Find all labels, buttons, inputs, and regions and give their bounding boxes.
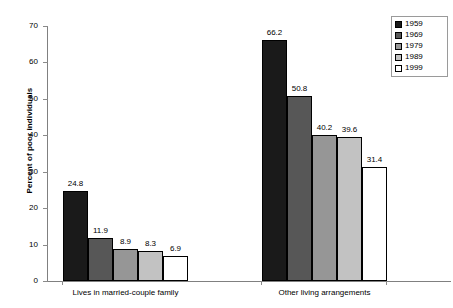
legend-item-label: 1979: [405, 42, 423, 50]
legend-item[interactable]: 1979: [395, 41, 444, 51]
bar: [362, 167, 387, 281]
y-axis-tick-label: 0: [0, 277, 38, 285]
bar-value-label: 11.9: [82, 227, 119, 235]
y-axis-tick: [43, 99, 48, 100]
bar: [138, 251, 163, 281]
y-axis-tick: [43, 62, 48, 63]
bar: [63, 191, 88, 281]
y-axis-tick-label: 30: [0, 168, 38, 176]
x-axis-line: [47, 281, 451, 282]
legend-item-label: 1989: [405, 53, 423, 61]
legend-item-label: 1999: [405, 64, 423, 72]
legend-item[interactable]: 1989: [395, 52, 444, 62]
y-axis-tick-label: 60: [0, 58, 38, 66]
y-axis-tick: [43, 26, 48, 27]
legend-swatch-icon: [395, 21, 402, 28]
legend: 1959 1969 1979 1989 1999: [391, 16, 448, 77]
bar: [163, 256, 188, 281]
bar-value-label: 24.8: [57, 180, 94, 188]
y-axis-tick: [43, 208, 48, 209]
legend-swatch-icon: [395, 43, 402, 50]
bar-value-label: 39.6: [331, 126, 368, 134]
legend-item-label: 1959: [405, 20, 423, 28]
bar: [312, 135, 337, 281]
y-axis-line: [47, 26, 48, 282]
y-axis-tick: [43, 172, 48, 173]
y-axis-tick-label: 20: [0, 204, 38, 212]
legend-swatch-icon: [395, 54, 402, 61]
bar-chart: Percent of poor individuals 010203040506…: [0, 0, 453, 308]
legend-item[interactable]: 1959: [395, 19, 444, 29]
x-axis-tick: [386, 281, 387, 285]
x-axis-tick: [261, 281, 262, 285]
legend-item[interactable]: 1999: [395, 63, 444, 73]
legend-swatch-icon: [395, 65, 402, 72]
bar-value-label: 50.8: [281, 85, 318, 93]
x-axis-category-label: Lives in married-couple family: [46, 288, 206, 297]
y-axis-tick-label: 40: [0, 131, 38, 139]
x-axis-tick: [62, 281, 63, 285]
y-axis-tick: [43, 135, 48, 136]
legend-swatch-icon: [395, 32, 402, 39]
y-axis-tick: [43, 245, 48, 246]
bar: [113, 249, 138, 281]
legend-item-label: 1969: [405, 31, 423, 39]
y-axis-tick-label: 10: [0, 241, 38, 249]
legend-item[interactable]: 1969: [395, 30, 444, 40]
y-axis-tick-label: 50: [0, 95, 38, 103]
y-axis-tick: [43, 281, 48, 282]
bar-value-label: 66.2: [256, 29, 293, 37]
bar-value-label: 31.4: [356, 156, 393, 164]
bar: [262, 40, 287, 281]
bar-value-label: 6.9: [157, 245, 194, 253]
y-axis-tick-label: 70: [0, 22, 38, 30]
y-axis-title: Percent of poor individuals: [25, 56, 34, 226]
x-axis-category-label: Other living arrangements: [245, 288, 405, 297]
